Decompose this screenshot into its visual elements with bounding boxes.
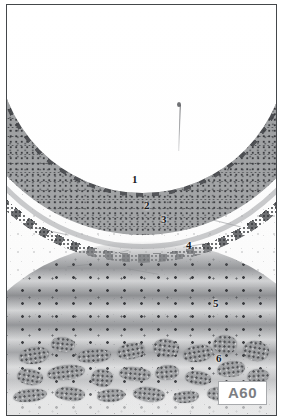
gland-clump — [54, 386, 85, 403]
gland-clump — [132, 385, 165, 403]
gland-clump — [18, 345, 50, 366]
gland-clump — [173, 390, 200, 404]
micrograph-image — [7, 5, 276, 415]
gland-clump — [184, 369, 212, 386]
gland-clump — [50, 336, 75, 353]
label-6-subserosal-glands: 6 — [216, 353, 222, 364]
micrograph-frame: 123456 A60 — [6, 4, 277, 416]
label-1-mucosa: 1 — [132, 174, 138, 185]
label-3-submucosal-gland-layer: 3 — [161, 214, 167, 225]
layer-mucosa — [6, 4, 277, 235]
gland-clump — [182, 343, 214, 364]
plate-id-badge: A60 — [218, 381, 267, 405]
gland-clump — [12, 387, 47, 403]
label-4-submucosa: 4 — [186, 240, 192, 251]
gland-clump — [97, 388, 126, 403]
gland-clump — [90, 368, 113, 387]
gland-clump — [118, 366, 151, 383]
gland-clump — [16, 367, 44, 387]
gland-clump — [242, 339, 271, 363]
gland-clump — [152, 337, 180, 358]
gland-clump — [77, 348, 112, 364]
label-2-muscularis-mucosae: 2 — [144, 200, 150, 211]
gland-clump — [154, 364, 179, 381]
label-5-muscularis-externa: 5 — [213, 298, 219, 309]
histology-plate: 123456 A60 — [0, 0, 287, 420]
villus-tip — [177, 102, 181, 107]
gland-clump — [116, 341, 146, 362]
gland-clump — [46, 363, 85, 382]
